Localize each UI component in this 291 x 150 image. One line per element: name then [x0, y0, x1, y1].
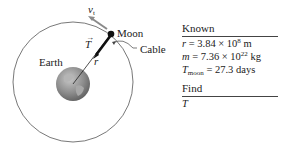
m-variable: m: [182, 51, 190, 62]
m-value: = 7.36 × 10: [190, 51, 241, 62]
m-exponent: 22: [241, 50, 248, 58]
velocity-label: vt: [88, 3, 95, 15]
find-header: Find: [182, 82, 278, 97]
tension-label: →T: [85, 38, 91, 50]
moon-icon: [108, 31, 115, 38]
known-radius: r = 3.84 × 108 m: [182, 37, 278, 50]
known-period: Tmoon = 27.3 days: [182, 63, 278, 76]
moon-label: Moon: [117, 27, 143, 39]
known-find-panel: Known r = 3.84 × 108 m m = 7.36 × 1022 k…: [182, 22, 278, 110]
cable-line: [96, 35, 111, 55]
r-unit: m: [241, 38, 252, 49]
find-variable: T: [182, 97, 278, 110]
cable-pointer: [113, 41, 137, 48]
orbit-diagram: [0, 0, 180, 150]
r-value: = 3.84 × 10: [186, 38, 237, 49]
find-t-variable: T: [182, 98, 188, 109]
t-subscript: moon: [188, 69, 204, 77]
radius-symbol: r: [94, 55, 98, 67]
velocity-subscript: t: [93, 9, 95, 17]
m-unit: kg: [248, 51, 261, 62]
earth-label: Earth: [39, 56, 63, 68]
known-header: Known: [182, 22, 278, 37]
cable-label: Cable: [140, 43, 166, 55]
radius-label: r: [94, 55, 98, 67]
known-mass: m = 7.36 × 1022 kg: [182, 50, 278, 63]
t-value: = 27.3 days: [204, 64, 255, 75]
